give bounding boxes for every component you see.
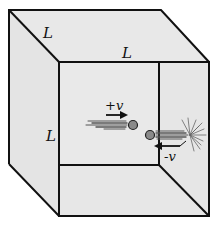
cube xyxy=(9,10,209,216)
label-velocity-out: -v xyxy=(164,149,176,164)
label-depth-edge: L xyxy=(42,24,53,42)
ball-icon xyxy=(129,121,138,130)
label-velocity-in: +v xyxy=(105,98,124,113)
ball-icon xyxy=(146,131,155,140)
label-top-edge: L xyxy=(121,44,132,62)
cube-back-wall xyxy=(59,62,159,165)
diagram-canvas: L L L +v -v xyxy=(0,0,219,228)
kinetic-theory-cube-diagram: L L L +v -v xyxy=(0,0,219,228)
label-side-edge: L xyxy=(45,127,56,145)
